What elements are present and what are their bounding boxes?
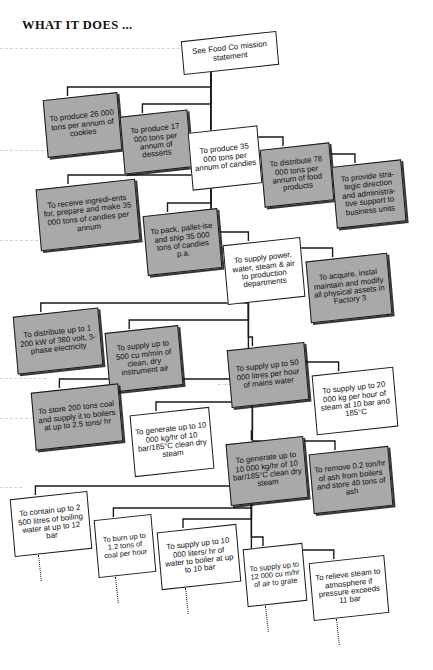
- diagram-node: To produce 26 000 tons per annum of cook…: [43, 92, 123, 158]
- diagram-node-label: See Food Co mission statement: [186, 40, 275, 67]
- connector-line: [183, 502, 251, 528]
- page-title: WHAT IT DOES ...: [22, 18, 133, 33]
- scan-artifact-line: [0, 378, 46, 379]
- diagram-node-label: To generate up to 10 000 kg/hr of 10 bar…: [135, 421, 210, 462]
- diagram-node-label: To generate up to 10 000 kg/hr of 10 bar…: [231, 450, 304, 491]
- diagram-node: To produce 17 000 tons per annum of dess…: [120, 109, 193, 174]
- diagram-node: To distribute up to 1 200 kW of 380 volt…: [13, 307, 104, 374]
- diagram-node: To contain up to 2 500 litres of boiling…: [10, 491, 93, 557]
- diagram-node-label: To remove 0.2 ton/hr of ash from boilers…: [314, 459, 389, 500]
- diagram-node-label: To receive ingredi-ents for, prepare and…: [41, 193, 135, 237]
- continuation-dots: [115, 577, 119, 603]
- diagram-node: To supply up to 10 000 liters/ hr of wat…: [157, 524, 242, 590]
- diagram-node: To store 200 tons coal and supply it to …: [31, 383, 124, 450]
- continuation-dots: [265, 606, 269, 632]
- diagram-node: To pack, pallet-ise and ship 35 000 tons…: [143, 208, 223, 276]
- diagram-node-label: To distribute 78 000 tons per annum of f…: [265, 155, 330, 195]
- diagram-node-label: To distribute up to 1 200 kW of 380 volt…: [18, 324, 98, 358]
- diagram-node-label: To pack, pallet-ise and ship 35 000 tons…: [148, 222, 218, 263]
- continuation-dots: [185, 588, 189, 614]
- diagram-node-label: To burn up to 1.2 tons of coal per hour: [99, 531, 151, 560]
- connector-line: [142, 70, 210, 113]
- diagram-node: To receive ingredi-ents for, prepare and…: [36, 179, 141, 252]
- connector-line: [251, 502, 263, 546]
- diagram-node-label: To supply power, water, steam & air to p…: [228, 250, 301, 291]
- diagram-node: To distribute 78 000 tons per annum of f…: [260, 142, 335, 207]
- diagram-node: See Food Co mission statement: [181, 31, 279, 75]
- scan-artifact-line: [0, 48, 190, 49]
- diagram-node-label: To contain up to 2 500 litres of boiling…: [15, 503, 88, 544]
- diagram-node: To acquire, instal maintain and modify a…: [306, 253, 393, 324]
- diagram-node-label: To produce 26 000 tons per annum of cook…: [48, 109, 117, 141]
- diagram-node: To relieve steam to atmosphere if pressu…: [309, 555, 390, 621]
- diagram-node: To supply up to 20 000 kg per hour of st…: [312, 367, 399, 436]
- diagram-node: To supply up to 12 000 cu m/hr of air to…: [243, 543, 308, 607]
- diagram-node-label: To supply up to 500 cu m/min of clean, d…: [110, 339, 179, 380]
- diagram-node-label: To supply up to 50 000 litres per hour o…: [232, 359, 304, 392]
- connector-line: [168, 187, 212, 212]
- connector-line: [248, 301, 252, 346]
- connector-line: [251, 404, 252, 440]
- scan-artifact-line: [0, 487, 22, 488]
- diagram-node: To burn up to 1.2 tons of coal per hour: [94, 514, 157, 578]
- diagram-node-label: To supply up to 20 000 kg per hour of st…: [317, 380, 393, 421]
- diagram-node-label: To supply up to 10 000 liters/ hr of wat…: [162, 536, 237, 577]
- diagram-node: To generate up to 10 000 kg/hr of 10 bar…: [130, 407, 215, 477]
- diagram-node-label: To store 200 tons coal and supply it to …: [36, 400, 118, 434]
- continuation-dots: [38, 555, 42, 581]
- diagram-node-label: To relieve steam to atmosphere if pressu…: [314, 568, 385, 609]
- diagram-node: To supply power, water, steam & air to p…: [223, 237, 306, 305]
- diagram-node-label: To supply up to 12 000 cu m/hr of air to…: [248, 560, 302, 589]
- diagram-node: To supply up to 50 000 litres per hour o…: [227, 342, 310, 408]
- diagram-node-label: To provide stra-tegic direction and admi…: [336, 170, 401, 219]
- diagram-node: To provide stra-tegic direction and admi…: [332, 159, 407, 228]
- diagram-node: To generate up to 10 000 kg/hr of 10 bar…: [226, 436, 309, 506]
- continuation-dots: [336, 619, 340, 645]
- diagram-node-label: To produce 17 000 tons per annum of dess…: [125, 122, 188, 162]
- diagram-node: To remove 0.2 ton/hr of ash from boilers…: [309, 446, 394, 514]
- diagram-node: To produce 35 000 tons per annum of cand…: [188, 125, 263, 190]
- diagram-node-label: To produce 35 000 tons per annum of cand…: [193, 142, 257, 174]
- diagram-canvas: WHAT IT DOES ... See Food Co mission sta…: [0, 0, 433, 670]
- connector-line: [129, 301, 248, 329]
- diagram-node-label: To acquire, instal maintain and modify a…: [311, 267, 387, 308]
